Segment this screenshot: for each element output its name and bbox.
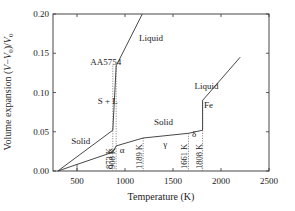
x-tick-label: 1500 (164, 176, 183, 186)
y-tick-label: 0.05 (33, 127, 49, 137)
phase-temperature-label: 1808 K (194, 143, 204, 169)
phase-temperature-label: 1189 K (134, 143, 144, 169)
y-tick-label: 0.20 (33, 9, 49, 19)
annotation-label: S + L (98, 96, 118, 106)
plot-area: 50010001500200025000.000.050.100.150.208… (33, 9, 278, 186)
annotation-label: AA5754 (90, 57, 121, 67)
series-line-fe (58, 57, 240, 171)
series-line-aa5754 (58, 14, 143, 171)
volume-expansion-chart: 50010001500200025000.000.050.100.150.208… (0, 0, 295, 211)
annotation-label: Solid (71, 136, 91, 146)
x-tick-label: 2000 (212, 176, 231, 186)
y-axis-label: Volume expansion (V−V0)/V0 (2, 33, 15, 150)
annotation-label: Solid (154, 117, 174, 127)
y-tick-label: 0.00 (33, 166, 49, 176)
annotation-label: δ (192, 129, 196, 139)
x-axis-label: Temperature (K) (128, 191, 195, 203)
x-tick-label: 1000 (116, 176, 135, 186)
y-tick-label: 0.15 (33, 48, 49, 58)
annotation-label: γ (162, 139, 167, 149)
phase-temperature-label: 1661 K (179, 143, 189, 169)
x-tick-label: 2500 (260, 176, 279, 186)
phase-temperature-label: 908 K (107, 147, 117, 169)
annotation-label: Liquid (195, 81, 219, 91)
annotation-label: α (120, 145, 125, 155)
x-tick-label: 500 (70, 176, 84, 186)
annotation-label: Liquid (139, 33, 163, 43)
y-tick-label: 0.10 (33, 88, 49, 98)
annotation-label: Fe (204, 100, 213, 110)
